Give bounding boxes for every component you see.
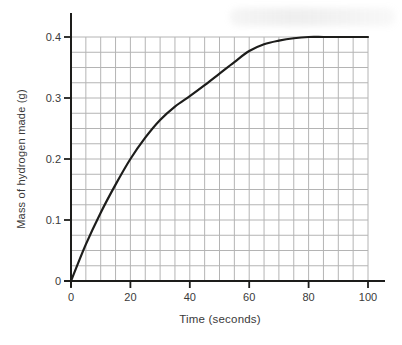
x-tick-label: 20 xyxy=(124,291,136,303)
x-tick-label: 40 xyxy=(184,291,196,303)
y-tick-label: 0.4 xyxy=(46,31,61,43)
x-tick-label: 100 xyxy=(359,291,377,303)
y-tick-label: 0.1 xyxy=(46,214,61,226)
x-tick-label: 60 xyxy=(243,291,255,303)
x-axis-title: Time (seconds) xyxy=(179,313,261,325)
y-tick-label: 0 xyxy=(55,275,61,287)
x-tick-label: 80 xyxy=(302,291,314,303)
x-tick-label: 0 xyxy=(68,291,74,303)
y-tick-label: 0.3 xyxy=(46,92,61,104)
y-tick-label: 0.2 xyxy=(46,153,61,165)
plot-area: 02040608010000.10.20.30.4 xyxy=(0,0,402,345)
y-axis-title: Mass of hydrogen made (g) xyxy=(15,89,27,229)
reaction-rate-chart: 02040608010000.10.20.30.4 Mass of hydrog… xyxy=(0,0,402,345)
